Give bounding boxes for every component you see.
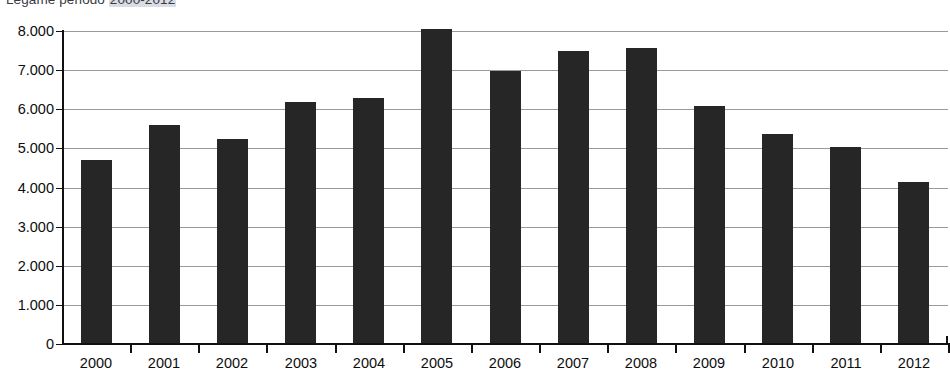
x-axis-tick-labels: 2000200120022003200420052006200720082009… [0, 0, 950, 377]
x-axis-tick [266, 345, 268, 353]
x-axis-tick [675, 345, 677, 353]
x-axis-tick-label: 2000 [80, 355, 112, 371]
x-axis-tick-label: 2005 [421, 355, 453, 371]
x-axis-tick-label: 2004 [353, 355, 385, 371]
x-axis-tick-label: 2003 [285, 355, 317, 371]
x-axis-tick-label: 2006 [489, 355, 521, 371]
x-axis-tick [539, 345, 541, 353]
x-axis-tick-label: 2001 [148, 355, 180, 371]
x-axis-tick [471, 345, 473, 353]
x-axis-tick-label: 2009 [693, 355, 725, 371]
x-axis-tick [403, 345, 405, 353]
x-axis-tick [744, 345, 746, 353]
x-axis-tick [880, 345, 882, 353]
x-axis-tick-label: 2011 [830, 355, 861, 371]
x-axis-tick-label: 2012 [898, 355, 930, 371]
x-axis-tick-label: 2002 [216, 355, 248, 371]
x-axis-tick [130, 345, 132, 353]
x-axis-tick-label: 2008 [625, 355, 657, 371]
x-axis-tick [198, 345, 200, 353]
x-axis-tick-label: 2010 [762, 355, 794, 371]
x-axis-tick [812, 345, 814, 353]
bar-chart-figure: Legame periodo 2000-2012 01.0002.0003.00… [0, 0, 950, 377]
x-axis-tick-label: 2007 [557, 355, 589, 371]
x-axis-tick [335, 345, 337, 353]
x-axis-tick [607, 345, 609, 353]
